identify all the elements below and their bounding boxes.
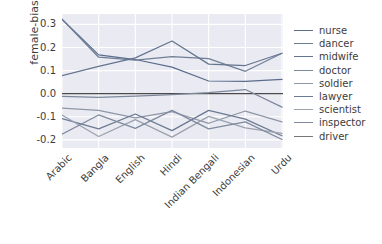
legend-label: nurse bbox=[319, 25, 347, 36]
legend-item-inspector[interactable]: inspector bbox=[294, 116, 380, 129]
legend-label: driver bbox=[319, 131, 348, 142]
legend-label: lawyer bbox=[319, 91, 352, 102]
legend-label: dancer bbox=[319, 38, 354, 49]
legend-swatch-icon bbox=[294, 109, 313, 110]
legend-swatch-icon bbox=[294, 30, 313, 31]
legend-label: midwife bbox=[319, 51, 359, 62]
legend-item-doctor[interactable]: doctor bbox=[294, 64, 380, 77]
legend-item-midwife[interactable]: midwife bbox=[294, 50, 380, 63]
legend-item-nurse[interactable]: nurse bbox=[294, 24, 380, 37]
legend-swatch-icon bbox=[294, 43, 313, 44]
legend-swatch-icon bbox=[294, 122, 313, 123]
legend: nursedancermidwifedoctorsoldierlawyersci… bbox=[294, 24, 380, 143]
legend-item-soldier[interactable]: soldier bbox=[294, 77, 380, 90]
legend-swatch-icon bbox=[294, 83, 313, 84]
legend-item-lawyer[interactable]: lawyer bbox=[294, 90, 380, 103]
legend-swatch-icon bbox=[294, 136, 313, 137]
legend-swatch-icon bbox=[294, 56, 313, 57]
legend-swatch-icon bbox=[294, 70, 313, 71]
legend-swatch-icon bbox=[294, 96, 313, 97]
figure: female-bias 0.30.20.10.0-0.1-0.2 ArabicB… bbox=[0, 0, 382, 244]
legend-label: scientist bbox=[319, 104, 361, 115]
legend-label: inspector bbox=[319, 117, 365, 128]
legend-item-driver[interactable]: driver bbox=[294, 130, 380, 143]
legend-label: doctor bbox=[319, 65, 351, 76]
legend-label: soldier bbox=[319, 78, 353, 89]
legend-item-dancer[interactable]: dancer bbox=[294, 37, 380, 50]
legend-item-scientist[interactable]: scientist bbox=[294, 103, 380, 116]
